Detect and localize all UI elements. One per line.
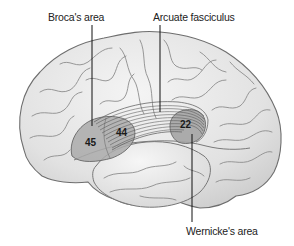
brain-illustration	[0, 0, 294, 246]
brodmann-area-44: 44	[116, 128, 127, 138]
brodmann-area-45: 45	[85, 138, 96, 148]
arcuate-fasciculus-label: Arcuate fasciculus	[153, 12, 235, 23]
brain-language-diagram: Broca's area Arcuate fasciculus Wernicke…	[0, 0, 294, 246]
broca-area-label: Broca's area	[48, 12, 104, 23]
wernicke-area-label: Wernicke's area	[186, 226, 258, 237]
brodmann-area-22: 22	[180, 120, 191, 130]
